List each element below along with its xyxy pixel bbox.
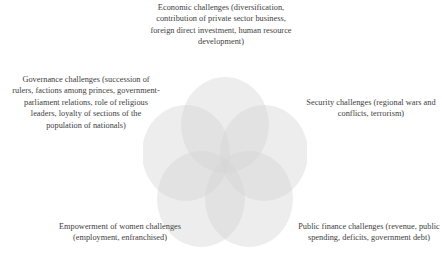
venn-label-governance: Governance challenges (succession of rul… [12,74,160,131]
venn-label-economic: Economic challenges (diversification, co… [148,2,294,48]
venn-label-security: Security challenges (regional wars and c… [302,97,440,120]
venn-label-public-finance: Public finance challenges (revenue, publ… [296,221,442,244]
venn-label-empowerment: Empowerment of women challenges (employm… [44,221,196,244]
venn-circle-public-finance [205,151,293,247]
venn-diagram-figure: Economic challenges (diversification, co… [0,0,442,277]
